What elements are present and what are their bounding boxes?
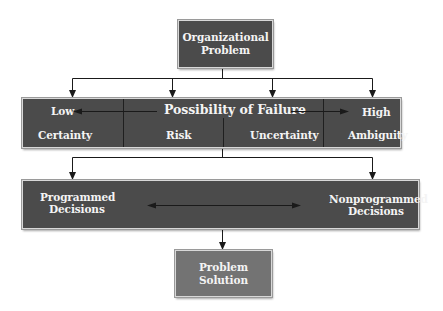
ambiguity-label: Ambiguity [348, 129, 408, 141]
organizational-problem-box: Organizational Problem [178, 20, 273, 68]
failure-axis-arrow [23, 99, 402, 149]
risk-label: Risk [166, 129, 192, 141]
possibility-of-failure-band: Low High Possibility of Failure Certaint… [22, 98, 401, 148]
nonprogrammed-line1: Nonprogrammed [329, 193, 428, 205]
nonprogrammed-line2: Decisions [348, 205, 404, 217]
decisions-band: Programmed Decisions Nonprogrammed Decis… [22, 180, 419, 229]
problem-solution-line2: Solution [176, 274, 271, 286]
organizational-problem-line1: Organizational [179, 31, 272, 43]
problem-solution-box: Problem Solution [175, 250, 272, 297]
uncertainty-label: Uncertainty [250, 129, 319, 141]
certainty-label: Certainty [38, 129, 92, 141]
problem-solution-line1: Problem [176, 261, 271, 273]
organizational-problem-line2: Problem [179, 44, 272, 56]
